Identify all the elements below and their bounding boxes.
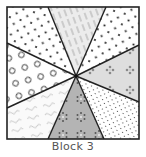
center-point xyxy=(74,74,77,77)
quilt-block-diagram xyxy=(0,0,146,142)
block-caption: Block 3 xyxy=(0,140,146,154)
